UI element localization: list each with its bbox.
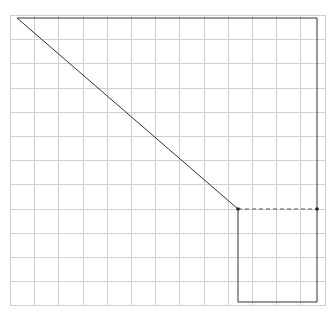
vertex-marker (236, 207, 240, 211)
vertex-marker (315, 207, 319, 211)
grid (10, 15, 326, 306)
diagram-canvas (0, 0, 330, 314)
